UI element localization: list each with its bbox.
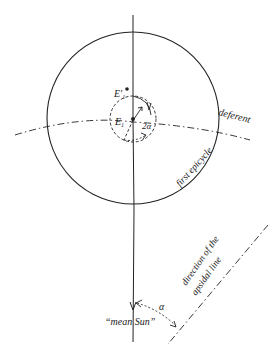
deferent-curve (15, 120, 250, 140)
mean-sun-line (133, 15, 134, 342)
label-first-epicycle: first epicycle (174, 145, 214, 188)
label-mean-sun: “mean Sun” (105, 316, 156, 327)
label-alpha: α (159, 301, 165, 312)
epicycle-diagram: E′1 E1 2α deferent first epicycle direct… (0, 0, 277, 348)
alpha-arrowhead-left (136, 300, 142, 307)
label-deferent: deferent (218, 106, 252, 125)
dashed-radius (124, 120, 133, 140)
center-point (131, 117, 135, 121)
inner-arrow (147, 102, 151, 110)
label-two-alpha: 2α (142, 121, 152, 131)
label-e1-prime: E′1 (113, 88, 125, 100)
label-e1: E1 (114, 116, 124, 128)
e1-prime-point (125, 87, 129, 91)
alpha-arrowhead-right (170, 321, 176, 327)
radius-arrow (134, 107, 142, 119)
